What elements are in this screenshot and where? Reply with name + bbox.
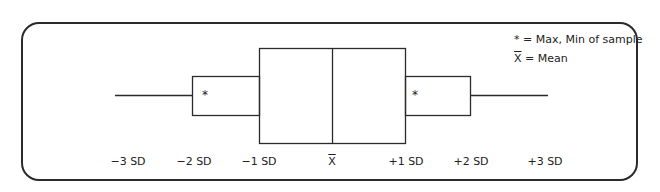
axis-label-mean: X	[328, 155, 336, 168]
axis-label-plus-1sd: +1 SD	[388, 155, 423, 168]
legend-xbar-symbol: X	[514, 52, 522, 65]
max-marker-asterisk: *	[412, 88, 418, 102]
legend-mean-text: = Mean	[525, 52, 568, 65]
axis-label-minus-3sd: −3 SD	[110, 155, 145, 168]
legend-asterisk-symbol: *	[514, 33, 520, 46]
axis-label-minus-1sd: −1 SD	[241, 155, 276, 168]
legend-item-max-min: * = Max, Min of sample	[514, 30, 643, 49]
axis-label-plus-2sd: +2 SD	[453, 155, 488, 168]
legend-item-mean: X = Mean	[514, 49, 643, 68]
legend-max-min-text: = Max, Min of sample	[523, 33, 643, 46]
axis-label-minus-2sd: −2 SD	[176, 155, 211, 168]
axis-label-plus-3sd: +3 SD	[527, 155, 562, 168]
legend: * = Max, Min of sample X = Mean	[514, 30, 643, 68]
min-marker-asterisk: *	[202, 88, 208, 102]
